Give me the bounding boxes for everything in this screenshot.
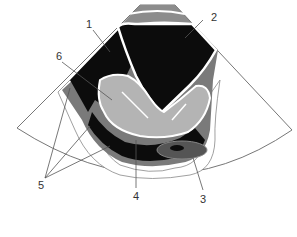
ultrasound-diagram (0, 0, 297, 237)
label-5: 5 (38, 180, 44, 191)
label-1: 1 (86, 19, 92, 30)
label-3: 3 (200, 194, 206, 205)
label-2: 2 (211, 12, 217, 23)
near-field-band (122, 5, 192, 24)
label-4: 4 (133, 191, 139, 202)
label-6: 6 (56, 51, 62, 62)
